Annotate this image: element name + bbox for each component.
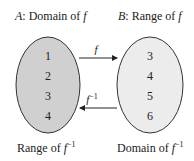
set-b-element: 3	[147, 49, 153, 63]
set-b-bottom-sup: −1	[175, 140, 184, 149]
set-a-element: 1	[45, 49, 51, 63]
set-b-bottom-label: Domain of f−1	[117, 140, 184, 156]
set-b-bottom-text: Domain of	[117, 141, 172, 155]
set-b-element: 5	[147, 89, 153, 103]
set-a-bottom-sup: −1	[67, 140, 76, 149]
set-a-bottom-text: Range of	[17, 141, 64, 155]
mapping-diagram: 1 2 3 4 3 4 5 6 f f−1	[0, 0, 194, 161]
set-a-element: 3	[45, 89, 51, 103]
inverse-arrow-label: f−1	[86, 92, 98, 105]
set-b-element: 4	[147, 69, 153, 83]
set-a-element: 2	[45, 69, 51, 83]
set-a-element: 4	[45, 109, 51, 123]
set-a-bottom-label: Range of f−1	[17, 140, 76, 156]
forward-arrow-label: f	[94, 43, 99, 55]
set-b-element: 6	[147, 109, 153, 123]
